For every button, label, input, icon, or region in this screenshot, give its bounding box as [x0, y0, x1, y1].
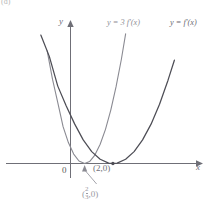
legend-label-3fprime: y = 3 f'(x)	[107, 19, 140, 27]
panel-tag: (d)	[1, 0, 10, 6]
legend-label-fprime: y = f'(x)	[170, 19, 197, 27]
point-marker-2-0	[111, 162, 114, 165]
origin-label: 0	[62, 166, 67, 175]
y-axis-arrowhead	[67, 20, 73, 27]
graph-canvas	[0, 0, 210, 210]
x-axis-label: x	[196, 163, 200, 172]
point-label-two-thirds-0: (23,0)	[82, 186, 98, 201]
y-axis-label: y	[59, 17, 63, 26]
point-label-2-0: (2,0)	[93, 164, 110, 173]
figure-panel: (d) y x 0 (2,0) y = 3 f'(x) y = f'(x) (2…	[0, 0, 210, 210]
leader-arrowhead	[82, 165, 87, 172]
curve-fprime	[41, 35, 175, 163]
fraction-suffix: ,0)	[89, 189, 99, 199]
